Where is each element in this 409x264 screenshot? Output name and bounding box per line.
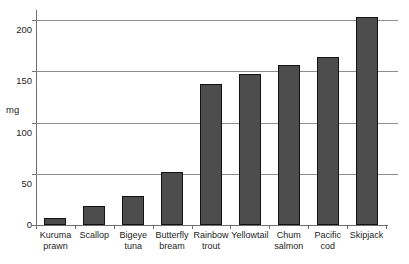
x-axis-category-labels: KurumaprawnScallopBigeyetunaButterflybre… (36, 230, 386, 260)
x-tick-mark-end (386, 225, 387, 229)
bar-butterfly-bream (161, 172, 183, 225)
x-label-line: Butterfly (153, 230, 192, 241)
y-tick-label-150: 150 (2, 76, 32, 86)
x-tick-mark-2 (114, 225, 115, 229)
y-axis-tick-labels: 200 150 100 50 0 (0, 10, 32, 225)
x-label-skipjack: Skipjack (347, 230, 386, 241)
x-tick-mark-5 (230, 225, 231, 229)
bar-scallop (83, 206, 105, 225)
x-label-yellowtail: Yellowtail (230, 230, 269, 241)
x-label-line: prawn (36, 241, 75, 252)
bar-bigeye-tuna (122, 196, 144, 225)
x-label-scallop: Scallop (75, 230, 114, 241)
x-tick-mark-8 (347, 225, 348, 229)
x-tick-mark-1 (75, 225, 76, 229)
x-label-line: Bigeye (114, 230, 153, 241)
x-label-line: Skipjack (347, 230, 386, 241)
x-tick-mark-6 (269, 225, 270, 229)
cutoff-caption-text: cut-off text line (2, 0, 88, 3)
x-tick-mark-3 (153, 225, 154, 229)
x-label-rainbow-trout: Rainbowtrout (192, 230, 231, 252)
x-label-chum-salmon: Chumsalmon (269, 230, 308, 252)
y-axis-title: mg (6, 104, 19, 115)
y-tick-label-100: 100 (2, 128, 32, 138)
bar-pacific-cod (317, 57, 339, 225)
x-label-line: Rainbow (192, 230, 231, 241)
x-label-line: Pacific (308, 230, 347, 241)
x-label-line: Kuruma (36, 230, 75, 241)
x-label-butterfly-bream: Butterflybream (153, 230, 192, 252)
x-label-line: Yellowtail (230, 230, 269, 241)
bar-yellowtail (239, 74, 261, 225)
x-label-line: bream (153, 241, 192, 252)
x-label-pacific-cod: Pacificcod (308, 230, 347, 252)
x-label-line: salmon (269, 241, 308, 252)
y-tick-label-0: 0 (2, 220, 32, 230)
bar-kuruma-prawn (44, 218, 66, 225)
bar-skipjack (356, 17, 378, 225)
bar-series (36, 10, 386, 225)
y-tick-label-50: 50 (2, 179, 32, 189)
x-label-line: cod (308, 241, 347, 252)
plot-area (36, 10, 386, 225)
x-label-line: tuna (114, 241, 153, 252)
x-tick-mark-0 (36, 225, 37, 229)
x-label-line: Scallop (75, 230, 114, 241)
x-tick-mark-4 (192, 225, 193, 229)
x-label-line: trout (192, 241, 231, 252)
chart-screenshot: cut-off text line 200 150 100 50 0 mg Ku… (0, 0, 409, 264)
bar-rainbow-trout (200, 84, 222, 225)
x-axis-baseline (36, 225, 388, 226)
x-label-bigeye-tuna: Bigeyetuna (114, 230, 153, 252)
bar-chum-salmon (278, 65, 300, 225)
x-label-kuruma-prawn: Kurumaprawn (36, 230, 75, 252)
y-tick-label-200: 200 (2, 25, 32, 35)
x-tick-mark-7 (308, 225, 309, 229)
x-label-line: Chum (269, 230, 308, 241)
